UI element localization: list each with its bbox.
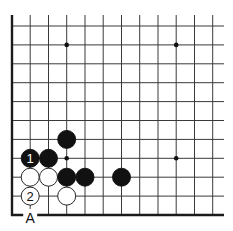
point-label: A [26, 210, 36, 226]
move-number: 2 [27, 189, 34, 204]
black-stone [76, 168, 94, 186]
star-point [64, 43, 69, 48]
black-stone: 1 [21, 149, 39, 167]
white-stone: 2 [21, 187, 39, 205]
white-stone [58, 187, 76, 205]
go-board-diagram: 12 A [0, 0, 233, 231]
star-point [64, 156, 69, 161]
point-labels: A [23, 209, 37, 226]
white-stone [21, 168, 39, 186]
black-stone [58, 130, 76, 148]
black-stone [58, 168, 76, 186]
star-point [174, 156, 179, 161]
black-stone [113, 168, 131, 186]
board-grid [11, 15, 224, 216]
white-stone [40, 168, 58, 186]
black-stone [40, 149, 58, 167]
star-point [174, 43, 179, 48]
stones: 12 [21, 130, 130, 205]
move-number: 1 [27, 151, 34, 166]
